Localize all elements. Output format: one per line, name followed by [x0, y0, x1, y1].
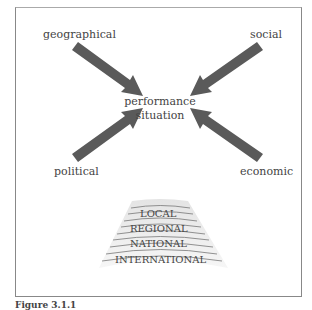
- center-line2: situation: [120, 109, 200, 123]
- label-social: social: [250, 28, 282, 41]
- level-local: LOCAL: [140, 208, 176, 219]
- level-national: NATIONAL: [130, 238, 187, 249]
- level-international: INTERNATIONAL: [115, 254, 206, 265]
- arrow-geographical-icon: [72, 42, 143, 96]
- label-geographical: geographical: [43, 28, 116, 41]
- arrow-social-icon: [190, 42, 263, 96]
- center-node: performance situation: [120, 95, 200, 123]
- level-regional: REGIONAL: [130, 223, 188, 234]
- figure-caption: Figure 3.1.1: [15, 300, 76, 310]
- arrow-economic-icon: [190, 108, 263, 162]
- label-political: political: [54, 165, 99, 178]
- label-economic: economic: [240, 165, 293, 178]
- center-line1: performance: [120, 95, 200, 109]
